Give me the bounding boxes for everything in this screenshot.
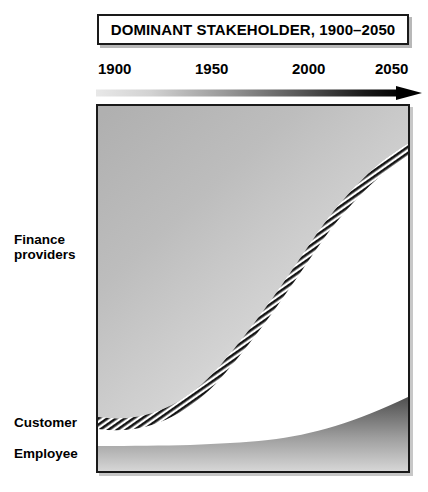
right-arrow-icon: [96, 86, 422, 100]
timeline-tick-1900: 1900: [98, 60, 131, 77]
row-label-customer: Customer: [14, 415, 77, 430]
timeline-tick-1950: 1950: [195, 60, 228, 77]
timeline-arrow: [96, 86, 422, 100]
timeline-tick-2000: 2000: [292, 60, 325, 77]
timeline-tick-labels: 1900 1950 2000 2050: [96, 60, 410, 82]
page-title: DOMINANT STAKEHOLDER, 1900–2050: [111, 21, 396, 38]
chart-title-box: DOMINANT STAKEHOLDER, 1900–2050: [97, 14, 409, 45]
stakeholder-area-chart: [98, 106, 408, 471]
chart-plot-area: [96, 104, 410, 473]
row-label-finance-providers: Finance providers: [14, 232, 76, 262]
row-label-employee: Employee: [14, 446, 78, 461]
timeline-tick-2050: 2050: [375, 60, 408, 77]
